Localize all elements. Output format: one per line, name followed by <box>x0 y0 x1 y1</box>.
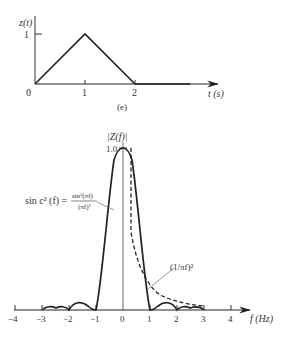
top-x-label: t (s) <box>208 88 225 100</box>
f-tick-neg3: −3 <box>36 314 46 324</box>
envelope-curve <box>131 148 205 306</box>
f-tick-neg1: −1 <box>90 314 100 324</box>
top-y-label: z(t) <box>18 17 33 29</box>
sinc-label-left: sin c² (f) = <box>25 195 68 207</box>
bottom-y-label: |Z(f)| <box>107 131 128 143</box>
top-x-tick-1: 1 <box>82 87 87 98</box>
sinc-label-denominator: (πf)² <box>78 203 91 211</box>
top-caption: (e) <box>117 102 127 112</box>
f-tick-1: 1 <box>147 314 152 324</box>
envelope-label: (1/πf)² <box>170 262 194 272</box>
top-x-tick-2: 2 <box>132 87 137 98</box>
top-chart: z(t) 1 0 1 2 t (s) (e) <box>18 16 225 112</box>
figure-canvas: z(t) 1 0 1 2 t (s) (e) <box>0 0 288 360</box>
top-x-tick-0: 0 <box>26 87 31 98</box>
z-t-triangle-line <box>35 34 190 84</box>
f-tick-neg4: −4 <box>8 314 18 324</box>
f-tick-2: 2 <box>174 314 179 324</box>
f-tick-3: 3 <box>201 314 206 324</box>
sinc-label-numerator: sin²(πf) <box>72 192 93 200</box>
bottom-x-label: f (Hz) <box>250 313 274 325</box>
peak-label: 1.0 <box>106 144 118 154</box>
f-tick-4: 4 <box>228 314 233 324</box>
f-tick-0: 0 <box>120 314 125 324</box>
top-y-tick-1: 1 <box>24 29 29 40</box>
f-tick-neg2: −2 <box>63 314 73 324</box>
bottom-chart: |Z(f)| 1.0 sin c² (f) = sin²(πf) (πf)² (… <box>8 131 274 325</box>
